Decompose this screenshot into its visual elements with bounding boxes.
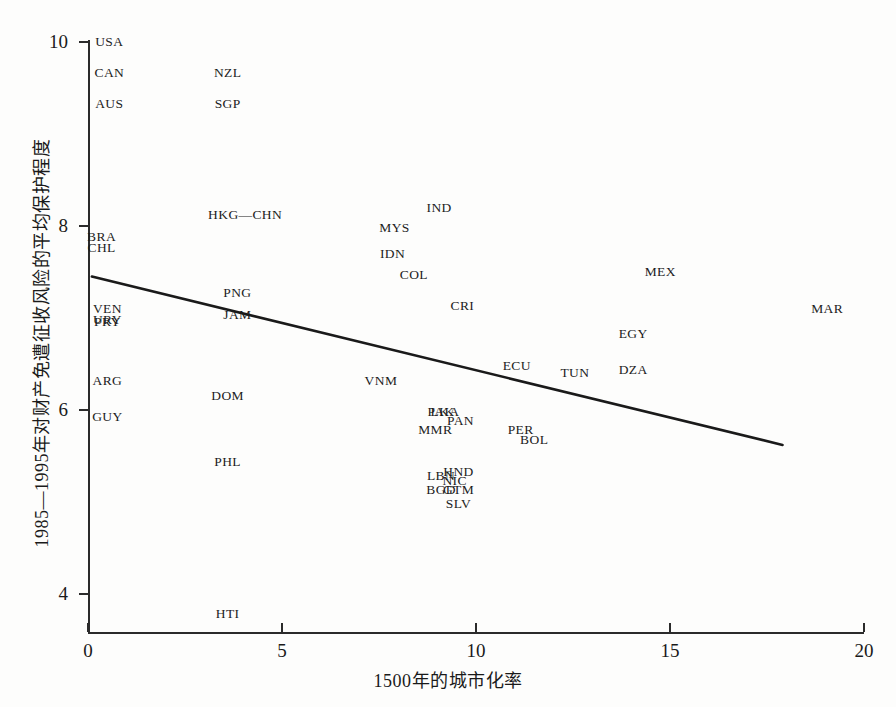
data-point-label: MYS xyxy=(379,221,409,235)
x-tick-mark xyxy=(87,623,89,632)
y-axis-title: 1985—1995年对财产免遭征收风险的平均保护程度 xyxy=(27,23,53,663)
data-point-label: VNM xyxy=(365,374,398,388)
data-point-label: SGP xyxy=(215,97,241,111)
y-tick-mark xyxy=(79,41,88,43)
x-tick-label: 5 xyxy=(262,641,302,660)
y-tick-mark xyxy=(79,225,88,227)
data-point-label: AUS xyxy=(95,97,123,111)
x-tick-label: 20 xyxy=(844,641,884,660)
x-tick-mark xyxy=(863,623,865,632)
data-point-label: PNG xyxy=(223,286,251,300)
data-point-label: GUY xyxy=(92,410,122,424)
data-point-label: ECU xyxy=(503,359,531,373)
data-point-label: IND xyxy=(427,201,452,215)
data-point-label: DOM xyxy=(211,389,244,403)
data-point-label: CRI xyxy=(451,299,475,313)
y-axis-line xyxy=(88,40,90,634)
y-tick-mark xyxy=(79,409,88,411)
data-point-label: CHL xyxy=(87,241,115,255)
data-point-label: TUN xyxy=(560,366,589,380)
data-point-label: HTI xyxy=(216,607,240,621)
data-point-label: NZL xyxy=(214,66,241,80)
data-point-label: ARG xyxy=(93,374,123,388)
data-point-label: MAR xyxy=(811,302,843,316)
data-point-label: SLV xyxy=(446,497,471,511)
x-tick-mark xyxy=(281,623,283,632)
x-tick-label: 0 xyxy=(68,641,108,660)
data-point-label: MMR xyxy=(418,423,452,437)
data-point-label: PRY xyxy=(94,315,121,329)
data-point-label: DZA xyxy=(619,363,648,377)
data-point-label: JAM xyxy=(223,308,251,322)
data-point-label: EGY xyxy=(619,327,648,341)
data-point-label: MEX xyxy=(645,265,676,279)
data-point-label: IDN xyxy=(380,247,405,261)
scatter-plot-figure: 46810 05101520 USACANNZLAUSSGPINDHKG—CHN… xyxy=(0,0,896,707)
x-axis-line xyxy=(88,632,864,634)
x-axis-title: 1500年的城市化率 xyxy=(0,666,896,692)
data-point-label: HKG—CHN xyxy=(208,208,282,222)
data-point-label: BOL xyxy=(520,433,548,447)
x-tick-mark xyxy=(669,623,671,632)
data-point-label: PHL xyxy=(214,455,241,469)
x-tick-mark xyxy=(475,623,477,632)
y-tick-mark xyxy=(79,593,88,595)
trendline xyxy=(0,0,896,707)
data-point-label: COL xyxy=(400,268,428,282)
data-point-label: USA xyxy=(95,35,123,49)
data-point-label: CAN xyxy=(94,66,124,80)
x-tick-label: 15 xyxy=(650,641,690,660)
x-tick-label: 10 xyxy=(456,641,496,660)
